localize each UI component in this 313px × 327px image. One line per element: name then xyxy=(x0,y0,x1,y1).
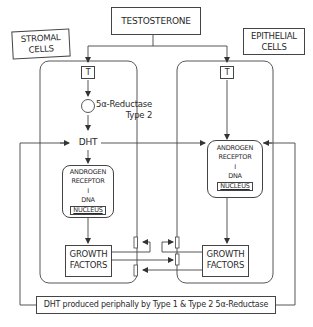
stromal-gf-line2: FACTORS xyxy=(66,260,111,271)
reductase-line1: 5α-Reductase xyxy=(96,99,152,110)
stromal-t-label: T xyxy=(86,68,91,77)
epithelial-gf-line2: FACTORS xyxy=(203,260,248,271)
epithelial-t-label: T xyxy=(225,68,230,77)
stromal-autocrine-receptor xyxy=(134,237,138,248)
stromal-ar-line4: DNA xyxy=(63,196,113,205)
stromal-paracrine-receptor xyxy=(134,265,138,276)
reductase-line2: Type 2 xyxy=(96,110,152,121)
epithelial-label-line2: CELLS xyxy=(244,42,304,53)
epithelial-label-line1: EPITHELIAL xyxy=(244,31,304,42)
stromal-cells-label: STROMAL CELLS xyxy=(11,29,70,60)
diagram-canvas: TESTOSTERONE STROMAL CELLS EPITHELIAL CE… xyxy=(0,0,313,327)
epithelial-nucleus-label: NUCLEUS xyxy=(220,182,249,190)
epithelial-autocrine-receptor xyxy=(176,237,180,248)
peripheral-dht-text: DHT produced periphally by Type 1 & Type… xyxy=(44,300,268,309)
testosterone-node: TESTOSTERONE xyxy=(111,7,201,35)
epithelial-cells-label: EPITHELIAL CELLS xyxy=(243,28,305,55)
reductase-enzyme-icon xyxy=(82,100,95,113)
reductase-label: 5α-Reductase Type 2 xyxy=(96,99,152,121)
stromal-ar-line2: RECEPTOR xyxy=(63,177,113,186)
testosterone-label: TESTOSTERONE xyxy=(121,16,191,26)
stromal-gf-line1: GROWTH xyxy=(66,249,111,260)
epithelial-ar-line2: RECEPTOR xyxy=(208,153,262,162)
epithelial-growth-factors: GROWTH FACTORS xyxy=(202,245,249,277)
epithelial-ar-line1: ANDROGEN xyxy=(208,144,262,153)
stromal-ar-line3: I xyxy=(63,187,113,196)
epithelial-nucleus-box: NUCLEUS xyxy=(217,182,252,192)
dht-label: DHT xyxy=(79,137,98,147)
stromal-ar-line1: ANDROGEN xyxy=(63,168,113,177)
epithelial-ar-line3: I xyxy=(208,163,262,172)
epithelial-paracrine-receptor xyxy=(176,254,180,265)
epithelial-androgen-receptor: ANDROGEN RECEPTOR I DNA NUCLEUS xyxy=(207,140,263,198)
epithelial-testosterone-node: T xyxy=(220,66,234,79)
dht-node: DHT xyxy=(76,137,100,148)
stromal-testosterone-node: T xyxy=(81,66,95,79)
epithelial-ar-line4: DNA xyxy=(208,172,262,181)
stromal-nucleus-box: NUCLEUS xyxy=(70,206,105,216)
peripheral-dht-note: DHT produced periphally by Type 1 & Type… xyxy=(36,296,276,314)
stromal-growth-factors: GROWTH FACTORS xyxy=(65,245,112,277)
stromal-androgen-receptor: ANDROGEN RECEPTOR I DNA NUCLEUS xyxy=(62,165,114,218)
stromal-nucleus-label: NUCLEUS xyxy=(73,206,102,214)
epithelial-gf-line1: GROWTH xyxy=(203,249,248,260)
